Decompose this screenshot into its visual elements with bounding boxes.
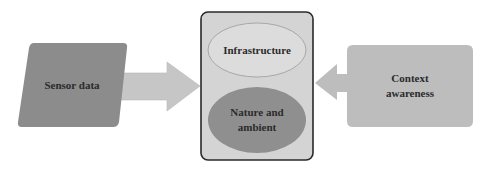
infrastructure-label: Infrastructure	[223, 44, 291, 56]
infrastructure-node: Infrastructure	[208, 23, 306, 77]
sensor-data-label: Sensor data	[44, 79, 100, 91]
context-awareness-node: Context awareness	[315, 45, 473, 127]
context-awareness-label-line2: awareness	[386, 87, 435, 99]
nature-ambient-node: Nature and ambient	[208, 87, 306, 153]
arrow-sensor-to-center	[116, 62, 200, 111]
context-awareness-label-line1: Context	[391, 72, 429, 84]
nature-ambient-label-line1: Nature and	[230, 106, 283, 118]
sensor-data-node: Sensor data	[18, 43, 127, 127]
nature-ambient-label-line2: ambient	[238, 121, 277, 133]
diagram-canvas: Sensor data Infrastructure Nature and am…	[0, 0, 489, 169]
